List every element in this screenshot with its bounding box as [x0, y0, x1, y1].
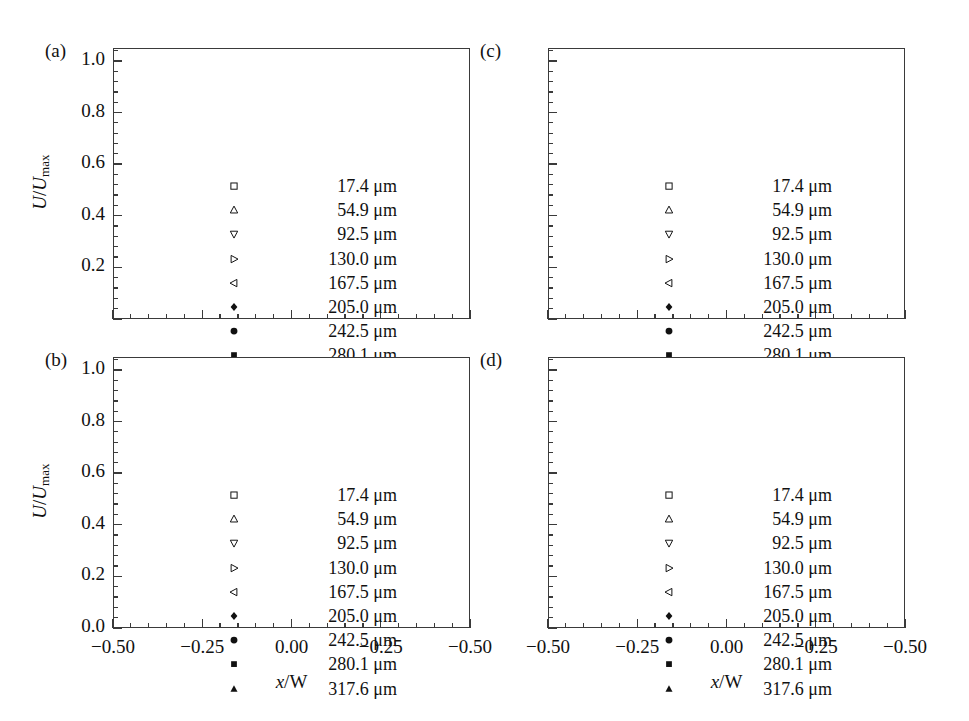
y-tick-minor [548, 400, 553, 401]
y-tick-minor [548, 184, 553, 185]
y-tick-minor [548, 493, 553, 494]
y-tick-major [548, 576, 557, 577]
x-tick-major [637, 619, 638, 628]
legend-marker-filled-circle-icon [221, 319, 247, 343]
legend-item: 205.0 μm [656, 604, 834, 628]
legend-label: 242.5 μm [247, 319, 397, 343]
y-tick-minor [113, 493, 118, 494]
legend-marker-filled-circle-icon [656, 319, 682, 343]
x-tick-minor [601, 623, 602, 628]
legend-item: 17.4 μm [656, 483, 834, 507]
legend-item: 54.9 μm [656, 198, 834, 222]
y-tick-minor [548, 483, 553, 484]
y-tick-minor [548, 607, 553, 608]
y-tick-major [548, 318, 557, 319]
legend-item: 17.4 μm [656, 174, 834, 198]
y-tick-minor [113, 514, 118, 515]
x-tick-minor [416, 623, 417, 628]
panel-label: (d) [480, 349, 502, 371]
legend-label: 205.0 μm [247, 604, 397, 628]
legend-marker-open-triangle-up-icon [221, 198, 247, 222]
y-tick-minor [113, 607, 118, 608]
legend-marker-open-triangle-down-icon [221, 531, 247, 555]
y-tick-minor [548, 225, 553, 226]
y-tick-minor [113, 91, 118, 92]
y-tick-minor [548, 277, 553, 278]
y-axis-title-u1: U [29, 504, 50, 518]
legend-item: 167.5 μm [221, 580, 399, 604]
y-tick-minor [548, 287, 553, 288]
legend-label: 54.9 μm [247, 198, 397, 222]
legend-marker-open-triangle-left-icon [221, 580, 247, 604]
legend-item: 167.5 μm [656, 580, 834, 604]
legend-marker-open-square-icon [656, 174, 682, 198]
x-tick-major [547, 310, 548, 319]
y-axis-title: U/Umax [29, 102, 53, 262]
x-axis-tick-label: −0.50 [68, 636, 158, 658]
x-axis-tick-label: −0.25 [771, 636, 861, 658]
x-tick-minor [434, 314, 435, 319]
y-tick-minor [113, 359, 118, 360]
y-tick-minor [548, 122, 553, 123]
x-tick-minor [851, 623, 852, 628]
y-tick-minor [548, 205, 553, 206]
x-tick-major [637, 310, 638, 319]
y-tick-minor [548, 411, 553, 412]
y-axis-tick-label: 0.2 [55, 254, 105, 276]
y-tick-major [113, 267, 122, 268]
legend-item: 205.0 μm [221, 604, 399, 628]
legend-item: 167.5 μm [656, 271, 834, 295]
legend-item: 242.5 μm [221, 319, 399, 343]
x-tick-major [904, 619, 905, 628]
legend-label: 130.0 μm [247, 247, 397, 271]
x-tick-minor [851, 314, 852, 319]
x-tick-minor [166, 314, 167, 319]
y-axis-tick-label: 0.6 [55, 460, 105, 482]
x-axis-title-rest: /W [284, 671, 307, 692]
y-axis-tick-label: 0.4 [55, 203, 105, 225]
x-axis-tick-label: −0.25 [157, 636, 247, 658]
x-axis-tick-label: 0.00 [247, 636, 337, 658]
legend-marker-open-triangle-left-icon [656, 271, 682, 295]
legend-label: 17.4 μm [247, 174, 397, 198]
y-tick-major [548, 267, 557, 268]
y-axis-title-u1: U [29, 195, 50, 209]
y-axis-tick-label: 1.0 [55, 48, 105, 70]
x-tick-minor [583, 623, 584, 628]
legend-label: 54.9 μm [247, 507, 397, 531]
x-tick-major [202, 310, 203, 319]
y-axis-tick-label: 0.0 [55, 615, 105, 637]
y-tick-minor [548, 91, 553, 92]
legend-item: 17.4 μm [221, 483, 399, 507]
y-tick-minor [548, 452, 553, 453]
y-tick-major [548, 163, 557, 164]
y-tick-minor [548, 194, 553, 195]
y-tick-major [113, 112, 122, 113]
x-axis-title: x/W [657, 671, 797, 693]
y-tick-major [113, 215, 122, 216]
x-axis-tick-label: −0.25 [336, 636, 426, 658]
y-tick-major [113, 421, 122, 422]
y-tick-minor [548, 81, 553, 82]
legend-item: 130.0 μm [221, 556, 399, 580]
x-tick-minor [583, 314, 584, 319]
y-tick-minor [548, 555, 553, 556]
y-tick-minor [548, 442, 553, 443]
plot-panel-d: 17.4 μm54.9 μm92.5 μm130.0 μm167.5 μm205… [548, 357, 905, 628]
y-axis-tick-label: 0.2 [55, 563, 105, 585]
y-tick-minor [113, 555, 118, 556]
plot-panel-b: 17.4 μm54.9 μm92.5 μm130.0 μm167.5 μm205… [113, 357, 470, 628]
y-tick-minor [113, 205, 118, 206]
legend-item: 54.9 μm [656, 507, 834, 531]
x-tick-minor [601, 314, 602, 319]
legend-item: 130.0 μm [221, 247, 399, 271]
y-tick-major [113, 369, 122, 370]
x-tick-major [904, 310, 905, 319]
y-tick-minor [548, 514, 553, 515]
y-tick-major [113, 318, 122, 319]
legend-item: 205.0 μm [656, 295, 834, 319]
legend-label: 92.5 μm [682, 531, 832, 555]
y-tick-major [548, 369, 557, 370]
x-tick-minor [869, 314, 870, 319]
legend-item: 130.0 μm [656, 556, 834, 580]
